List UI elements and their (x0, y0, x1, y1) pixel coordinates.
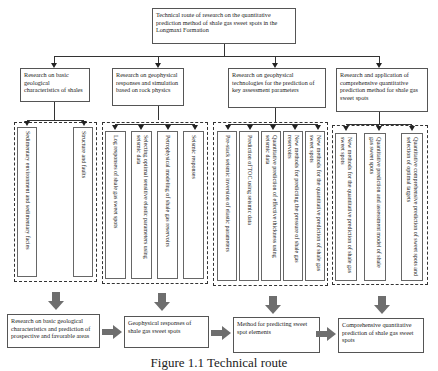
arrow-down-icon (225, 125, 231, 130)
arrow-down-icon (112, 125, 118, 130)
arrow-down-icon (192, 125, 198, 130)
arrow-down-icon (376, 126, 382, 131)
connector (379, 112, 380, 124)
fat-arrow-down-icon (374, 296, 390, 314)
connector (224, 44, 225, 56)
arrow-down-icon (247, 125, 253, 130)
item-box: New methods for the quantitative predict… (305, 131, 325, 281)
item-box: Prediction of TOC using seismic data (239, 131, 259, 281)
column-heading-4: Research and application of comprehensiv… (336, 68, 428, 112)
item-box: New methods for predicting the pressure … (283, 131, 303, 281)
connector (115, 124, 195, 125)
arrow-down-icon (81, 121, 87, 126)
column-heading-1: Research on basic geological characteris… (20, 68, 90, 102)
outcome-box-1: Research on basic geological characteris… (7, 314, 100, 348)
column-heading-2: Research on geophysical responses and si… (112, 68, 184, 106)
item-box: Sedimentary environment and sedimentary … (17, 127, 37, 277)
outcome-box-2: Geophysical responses of shale gas sweet… (124, 316, 209, 348)
fat-arrow-down-icon (154, 293, 170, 311)
figure-caption: Figure 1.1 Technical route (0, 355, 438, 371)
item-box: Structure and faults (73, 127, 93, 277)
item-box: Log responses of shale gas sweet spots (105, 131, 126, 279)
outcome-box-3: Method for predicting sweet spot element… (233, 317, 320, 353)
arrow-down-icon (292, 125, 298, 130)
connector (346, 124, 412, 125)
arrow-down-icon (270, 125, 276, 130)
item-box: Selecting optimal sensitive elastic para… (131, 131, 152, 279)
item-box: Quantitative prediction of effective thi… (261, 131, 281, 281)
title-box: Technical route of research on the quant… (152, 8, 296, 44)
title-text: Technical route of research on the quant… (156, 11, 277, 33)
fat-arrow-down-icon (265, 296, 281, 314)
arrow-down-icon (315, 125, 321, 130)
arrow-down-icon (409, 126, 415, 131)
arrow-down-icon (165, 125, 171, 130)
item-box: Pre-stack seismic inversion of elastic p… (217, 131, 237, 281)
outcome-box-4: Comprehensive quantitative prediction of… (338, 318, 424, 353)
fat-arrow-right-icon (102, 325, 122, 339)
arrow-down-icon (343, 126, 349, 131)
item-box: Quantitative prediction and assessment m… (364, 133, 386, 281)
arrow-down-icon (24, 121, 30, 126)
arrow-down-icon (138, 125, 144, 130)
connector (158, 106, 159, 120)
item-box: Seismic responses (183, 131, 204, 279)
item-box: Petrophysical modeling of shale gas rese… (157, 131, 178, 279)
column-heading-3: Research on geophysical technologies for… (228, 68, 326, 108)
connector (275, 108, 276, 122)
item-box: Quantitative comprehensive prediction of… (401, 133, 423, 281)
fat-arrow-right-icon (316, 327, 336, 341)
connector (54, 102, 55, 120)
fat-arrow-down-icon (48, 292, 64, 310)
item-box: New methods for the quantitative predict… (335, 133, 357, 281)
fat-arrow-right-icon (211, 326, 231, 340)
connector (54, 56, 380, 57)
connector (27, 120, 84, 121)
